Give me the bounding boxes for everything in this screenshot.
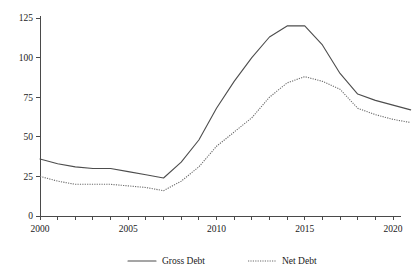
legend-label-net-debt: Net Debt — [282, 256, 317, 266]
x-axis: 20002005201020152020 — [31, 216, 403, 234]
y-tick-label: 75 — [24, 93, 34, 103]
chart-canvas: 0255075100125 20002005201020152020 Gross… — [0, 0, 413, 273]
y-tick-label: 50 — [24, 132, 34, 142]
chart-legend: Gross DebtNet Debt — [128, 256, 317, 266]
x-tick-label: 2005 — [119, 224, 138, 234]
x-tick-label: 2020 — [384, 224, 403, 234]
y-tick-label: 0 — [28, 211, 33, 221]
series-line-gross-debt — [40, 26, 411, 178]
y-tick-label: 100 — [19, 53, 34, 63]
series-layer — [40, 26, 411, 191]
y-tick-label: 25 — [24, 172, 34, 182]
series-line-net-debt — [40, 77, 411, 191]
x-tick-label: 2015 — [295, 224, 314, 234]
y-axis: 0255075100125 — [19, 13, 40, 221]
x-tick-label: 2000 — [31, 224, 50, 234]
debt-line-chart: 0255075100125 20002005201020152020 Gross… — [0, 0, 413, 273]
y-tick-label: 125 — [19, 13, 34, 23]
legend-label-gross-debt: Gross Debt — [162, 256, 205, 266]
x-tick-label: 2010 — [207, 224, 226, 234]
